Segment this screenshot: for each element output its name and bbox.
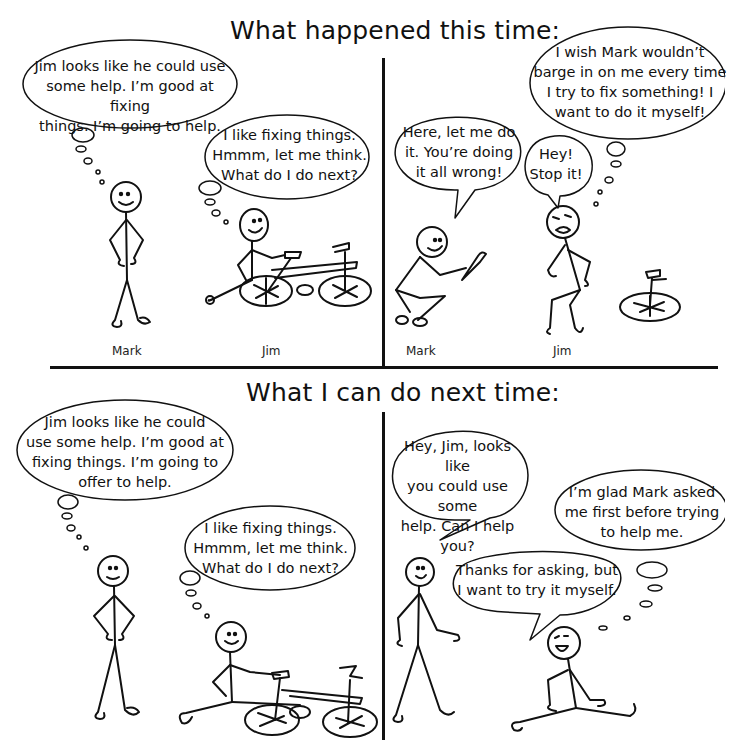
jim-speech-text-bottom-right: Thanks for asking, but I want to try it … — [452, 560, 622, 600]
mark-figure-top-left — [110, 182, 150, 327]
jim-figure-bottom-right — [512, 627, 635, 731]
jim-label-top-left: Jim — [262, 344, 281, 358]
mark-thought-text-bottom-left: Jim looks like he could use some help. I… — [25, 412, 225, 492]
jim-thought-text-top-left: I like fixing things. Hmmm, let me think… — [207, 125, 372, 185]
bicycle-wheel-top-right — [620, 270, 680, 321]
mark-thought-text-top-left: Jim looks like he could use some help. I… — [30, 56, 230, 136]
jim-thought-text-top-right: I wish Mark wouldn’t barge in on me ever… — [530, 42, 730, 122]
jim-speech-text-top-right: Hey! Stop it! — [526, 144, 586, 184]
jim-figure-top-right — [547, 206, 590, 334]
mark-label-top-right: Mark — [406, 344, 436, 358]
bicycle-bottom-left — [245, 666, 377, 737]
mark-figure-bottom-left — [94, 556, 139, 719]
mark-figure-bottom-right — [393, 558, 459, 722]
mark-figure-top-right — [396, 227, 486, 326]
jim-thought-text-bottom-left: I like fixing things. Hmmm, let me think… — [188, 518, 353, 578]
jim-thought-text-bottom-right: I’m glad Mark asked me first before tryi… — [558, 482, 726, 542]
jim-label-top-right: Jim — [553, 344, 572, 358]
mark-label-top-left: Mark — [112, 344, 142, 358]
mark-speech-text-bottom-right: Hey, Jim, looks like you could use some … — [390, 436, 525, 556]
mark-speech-text-top-right: Here, let me do it. You’re doing it all … — [395, 122, 523, 182]
